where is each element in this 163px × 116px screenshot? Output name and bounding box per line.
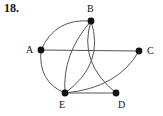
- graph-edge-C-E: [65, 51, 139, 93]
- graph-figure: [0, 0, 163, 116]
- graph-vertex-E: [62, 90, 69, 97]
- vertex-label-D: D: [118, 100, 125, 110]
- vertex-label-C: C: [147, 46, 154, 56]
- graph-edge-A-B: [41, 21, 91, 50]
- vertex-label-B: B: [87, 4, 94, 14]
- graph-vertex-C: [136, 48, 143, 55]
- graph-edge-B-D: [88, 21, 116, 93]
- graph-vertex-A: [38, 47, 45, 54]
- graph-edge-A-C: [41, 50, 139, 51]
- graph-edge-A-E: [41, 50, 65, 93]
- vertex-label-A: A: [26, 45, 33, 55]
- vertex-label-E: E: [59, 100, 65, 110]
- edge-layer: [41, 21, 139, 93]
- graph-vertex-B: [88, 18, 95, 25]
- graph-vertex-D: [113, 90, 120, 97]
